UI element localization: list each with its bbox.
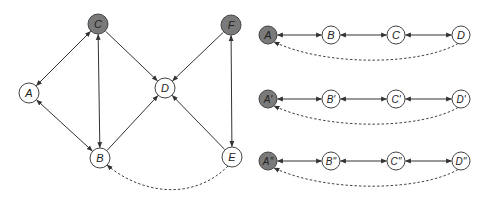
chain-1-node-3: D' [452, 90, 470, 108]
chain-2-node-0: A'' [259, 152, 277, 170]
node-label: A [24, 87, 32, 99]
dashed-edge-E-B [107, 165, 228, 190]
nodes-layer: ABCDEFABCDA'B'C'D'A''B''C''D'' [19, 14, 470, 170]
chain-0-node-2: C [387, 26, 405, 44]
chain-0-node-0: A [259, 26, 277, 44]
node-label: D [457, 29, 465, 41]
edge-F-E [231, 35, 232, 146]
node-label: A' [263, 94, 274, 105]
chain-1-node-0: A' [259, 90, 277, 108]
chain-1-node-1: B' [322, 90, 340, 108]
node-C: C [88, 14, 108, 34]
chain-1-node-2: C' [387, 90, 405, 108]
node-label: B'' [326, 156, 338, 167]
node-B: B [90, 148, 110, 168]
chain-dashed-edge [274, 106, 458, 124]
node-label: D'' [455, 156, 467, 167]
node-label: C [94, 18, 102, 30]
chain-2-node-3: D'' [452, 152, 470, 170]
edge-C-D [106, 31, 158, 80]
node-E: E [222, 147, 242, 167]
node-label: C' [391, 94, 401, 105]
causal-diagram: ABCDEFABCDA'B'C'D'A''B''C''D'' [0, 0, 486, 201]
node-F: F [221, 15, 241, 35]
edge-A-B [37, 100, 93, 151]
chain-0-node-1: B [322, 26, 340, 44]
chain-dashed-edge [274, 42, 458, 60]
edge-C-B [98, 34, 100, 147]
node-label: D [161, 82, 169, 94]
node-D: D [155, 78, 175, 98]
edge-E-D [172, 96, 224, 150]
node-label: B [96, 152, 103, 164]
node-label: B' [327, 94, 337, 105]
node-label: E [228, 151, 236, 163]
edge-C-A [36, 31, 90, 85]
node-label: A'' [262, 156, 275, 167]
node-label: B [327, 29, 334, 41]
edge-F-D [173, 32, 224, 81]
edge-B-D [107, 96, 158, 151]
chain-dashed-edge [274, 168, 458, 186]
chain-2-node-1: B'' [322, 152, 340, 170]
node-label: C'' [390, 156, 402, 167]
node-label: A [263, 29, 271, 41]
node-label: C [392, 29, 400, 41]
chain-2-node-2: C'' [387, 152, 405, 170]
node-A: A [19, 83, 39, 103]
chain-0-node-3: D [452, 26, 470, 44]
node-label: D' [456, 94, 466, 105]
